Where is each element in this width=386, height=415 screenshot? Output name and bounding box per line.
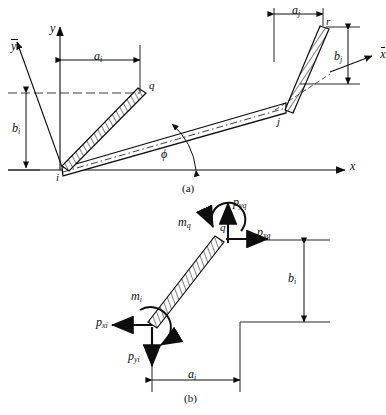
global-y-axis-label: y [50, 22, 55, 34]
local-y-axis [17, 42, 62, 167]
dim-bj-label-a: bj [334, 50, 342, 64]
dim-aj-label-a: aj [292, 4, 300, 18]
global-x-axis-label: x [350, 160, 355, 172]
force-pyq-label: pyq [233, 196, 246, 210]
moment-mi-label: mi [131, 290, 142, 304]
fbd-offset-iq [148, 236, 224, 328]
angle-phi-label: ϕ [161, 148, 167, 160]
node-r-label-a: r [326, 16, 330, 27]
panel-a-caption: (a) [182, 182, 194, 194]
local-x-axis-label: x [380, 47, 385, 61]
dim-ai-label-b: ai [188, 368, 196, 382]
dim-bi-label-b: bi [288, 272, 296, 286]
force-pxq-label: pxq [257, 226, 270, 240]
node-q-label-b: q [220, 222, 226, 233]
node-q-label-a: q [149, 80, 155, 91]
moment-mq-label: mq [178, 216, 191, 230]
force-pxi-label: pxi [96, 316, 108, 330]
node-j-label-a: j [277, 116, 280, 127]
dim-bi-b [240, 240, 330, 322]
node-i-label-a: i [56, 172, 59, 183]
dim-ai-label-a: ai [94, 50, 102, 64]
local-y-axis-label: y [11, 39, 19, 53]
panel-b-caption: (b) [184, 392, 197, 404]
dim-bi-label-a: bi [12, 122, 20, 136]
offset-jr [285, 26, 329, 113]
force-pyi-label: pyi [128, 350, 140, 364]
